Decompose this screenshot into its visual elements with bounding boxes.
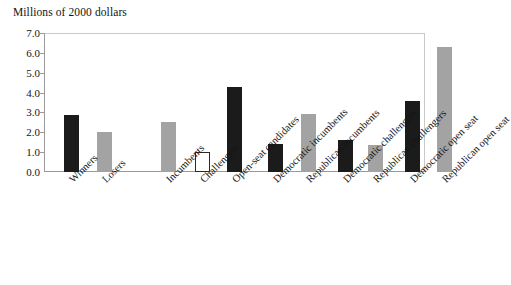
x-axis-label: Losers xyxy=(100,157,128,185)
x-axis-label: Winners xyxy=(67,152,100,185)
